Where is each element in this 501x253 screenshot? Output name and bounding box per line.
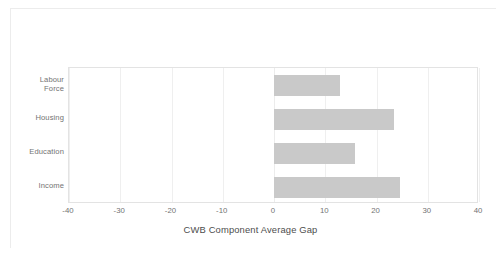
- gridline-30: [428, 68, 429, 202]
- chart-figure: LabourForceHousingEducationIncome -40-30…: [0, 0, 501, 253]
- x-axis-tick-30: 30: [422, 206, 431, 215]
- y-axis-label-income: Income: [0, 181, 64, 191]
- gridline--10: [223, 68, 224, 202]
- x-axis-ticks: -40-30-20-10010203040: [68, 206, 478, 220]
- x-axis-tick-0: 0: [271, 206, 275, 215]
- y-axis-label-line: Labour: [0, 75, 64, 85]
- bar-housing: [274, 109, 394, 130]
- y-axis-label-line: Education: [0, 147, 64, 157]
- y-axis-label-line: Force: [0, 84, 64, 94]
- y-axis-label-line: Income: [0, 181, 64, 191]
- y-axis-label-housing: Housing: [0, 113, 64, 123]
- gridline--30: [120, 68, 121, 202]
- x-axis-tick-40: 40: [474, 206, 483, 215]
- x-axis-tick--40: -40: [62, 206, 73, 215]
- bar-labour-force: [274, 75, 340, 96]
- x-axis-tick--30: -30: [114, 206, 125, 215]
- gridline-40: [479, 68, 480, 202]
- plot-area: [68, 67, 478, 203]
- x-axis-tick--10: -10: [216, 206, 227, 215]
- x-axis-tick--20: -20: [165, 206, 176, 215]
- bar-education: [274, 143, 355, 164]
- gridline--40: [69, 68, 70, 202]
- y-axis-label-labour-force: LabourForce: [0, 75, 64, 94]
- gridline--20: [172, 68, 173, 202]
- y-axis-labels: LabourForceHousingEducationIncome: [0, 67, 64, 203]
- y-axis-label-education: Education: [0, 147, 64, 157]
- bar-income: [274, 177, 400, 198]
- x-axis-tick-10: 10: [320, 206, 329, 215]
- y-axis-label-line: Housing: [0, 113, 64, 123]
- x-axis-tick-20: 20: [371, 206, 380, 215]
- x-axis-title: CWB Component Average Gap: [0, 224, 501, 235]
